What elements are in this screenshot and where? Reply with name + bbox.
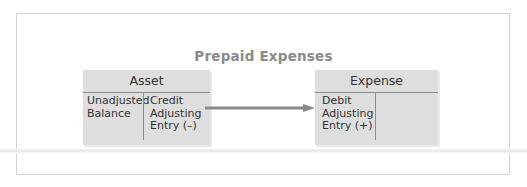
account-name: Asset <box>83 70 210 93</box>
account-name: Expense <box>315 70 438 93</box>
account-body: Debit Adjusting Entry (+) <box>315 93 438 143</box>
t-account-divider <box>143 93 144 140</box>
scan-artifact <box>0 148 527 154</box>
diagram-title: Prepaid Expenses <box>0 48 527 64</box>
arrow-right-icon <box>205 104 315 112</box>
expense-t-account: Expense Debit Adjusting Entry (+) <box>315 70 438 145</box>
debit-side-text: Unadjusted Balance <box>87 95 150 120</box>
t-account-divider <box>375 93 376 140</box>
credit-side-text: Credit Adjusting Entry (–) <box>150 95 201 133</box>
account-body: Unadjusted Balance Credit Adjusting Entr… <box>83 93 210 143</box>
asset-t-account: Asset Unadjusted Balance Credit Adjustin… <box>83 70 210 145</box>
debit-side-text: Debit Adjusting Entry (+) <box>322 95 373 133</box>
